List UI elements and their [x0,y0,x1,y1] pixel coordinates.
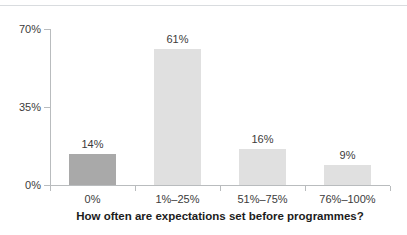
x-tick-mark [135,186,136,191]
x-tick-label: 51%–75% [218,193,308,205]
plot-area: 14%61%16%9% [50,29,390,185]
y-tick-label: 70% [1,24,41,35]
y-tick-label: 0% [1,180,41,191]
x-axis-title: How often are expectations set before pr… [50,210,390,223]
top-divider-rule [0,5,407,6]
x-tick-label: 76%–100% [303,193,393,205]
x-tick-mark [220,186,221,191]
x-tick-mark [390,186,391,191]
x-tick-mark [50,186,51,191]
bar-value-label: 9% [318,150,378,161]
bar [69,154,116,185]
bar [324,165,371,185]
bar-chart-figure: 0%35%70% 14%61%16%9% 0%1%–25%51%–75%76%–… [0,0,407,235]
x-tick-mark [305,186,306,191]
x-tick-label: 0% [48,193,138,205]
bar [239,149,286,185]
y-tick-label: 35% [1,102,41,113]
bar-value-label: 14% [63,139,123,150]
bar-value-label: 61% [148,34,208,45]
x-tick-label: 1%–25% [133,193,223,205]
bar-value-label: 16% [233,134,293,145]
bar [154,49,201,185]
